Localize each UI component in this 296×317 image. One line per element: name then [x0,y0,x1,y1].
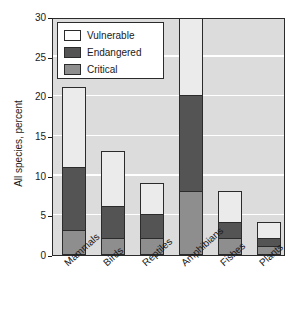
y-tick-label: 15 [24,132,46,142]
legend-item-endangered: Endangered [64,44,163,61]
legend-item-critical: Critical [64,61,163,78]
legend-label: Critical [87,64,118,75]
legend-swatch-vulnerable [64,30,81,41]
gridline [53,174,284,176]
y-tick-label: 20 [24,92,46,102]
bar-segment-vulnerable [101,151,125,208]
bar-segment-endangered [101,206,125,239]
legend-item-vulnerable: Vulnerable [64,27,163,44]
y-tick-mark [48,256,52,257]
gridline [53,135,284,137]
bar-segment-endangered [62,167,86,231]
y-tick-label: 0 [24,251,46,261]
y-tick-label: 10 [24,172,46,182]
legend-swatch-critical [64,64,81,75]
y-tick-label: 25 [24,53,46,63]
bar-plants [257,18,281,255]
y-tick-label: 30 [24,13,46,23]
gridline [53,95,284,97]
bar-segment-vulnerable [218,191,242,224]
bar-segment-vulnerable [140,183,164,216]
legend-swatch-endangered [64,47,81,58]
stacked-bar-chart: All species, percent 051015202530 Vulner… [0,0,296,317]
bar-segment-vulnerable [62,87,86,167]
chart-legend: VulnerableEndangeredCritical [57,22,164,79]
bar-segment-endangered [140,214,164,239]
y-axis-title: All species, percent [13,74,24,214]
legend-label: Vulnerable [87,30,134,41]
bar-amphibians [179,18,203,255]
bar-segment-endangered [179,95,203,191]
bar-segment-vulnerable [179,18,203,96]
bar-segment-vulnerable [257,222,281,239]
gridline [53,214,284,216]
bar-fishes [218,18,242,255]
legend-label: Endangered [87,47,142,58]
y-tick-label: 5 [24,211,46,221]
